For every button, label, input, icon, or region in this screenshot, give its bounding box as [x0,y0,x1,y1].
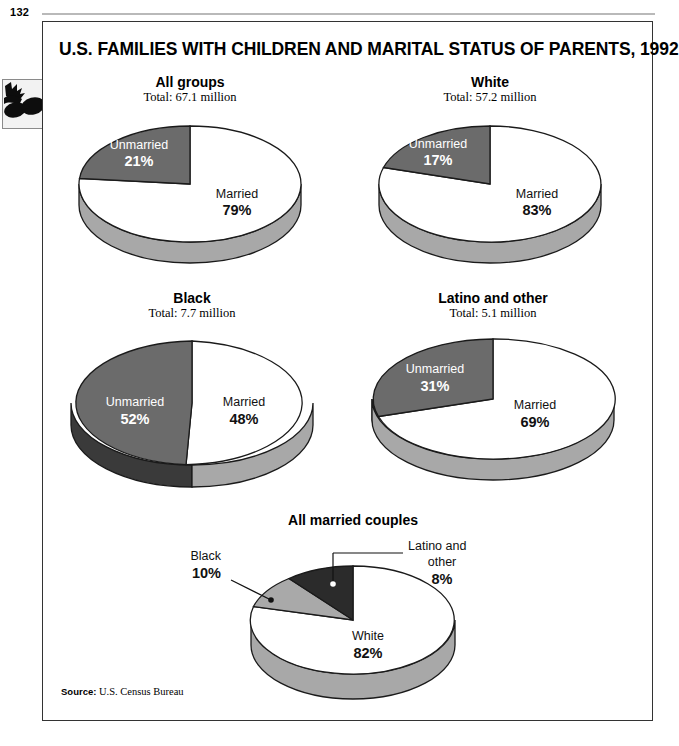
slice-value-married: 79% [222,202,251,218]
slice-value-white: 82% [353,645,382,661]
panel-title-black: Black [57,290,327,306]
source-text: U.S. Census Bureau [99,686,184,697]
slice-value-unmarried: 17% [423,152,452,168]
slice-label-latino-line1: Latino and [408,539,466,553]
panel-title-all-married-couples: All married couples [103,512,603,528]
source-line: Source: U.S. Census Bureau [61,686,184,697]
panel-title-all-groups: All groups [65,74,315,90]
figure-frame: U.S. FAMILIES WITH CHILDREN AND MARITAL … [42,21,653,721]
slice-value-latino: 8% [432,571,453,587]
panel-subtitle-latino: Total: 5.1 million [363,306,623,321]
slice-value-unmarried: 21% [124,153,153,169]
slice-label-latino-line2: other [428,555,457,569]
pie-panel-all-married-couples: All married couples Black [103,512,603,703]
header-rule [42,13,655,15]
slice-label-unmarried: Unmarried [409,137,467,151]
slice-label-black: Black [190,549,221,563]
slice-label-unmarried: Unmarried [106,395,164,409]
pie-panel-latino-and-other: Latino and other Total: 5.1 million Unma… [363,290,623,491]
page-number: 132 [10,6,29,18]
slice-label-unmarried: Unmarried [110,138,168,152]
panel-title-latino: Latino and other [363,290,623,306]
slice-label-married: Married [223,395,265,409]
slice-value-unmarried: 31% [420,378,449,394]
panel-subtitle-all-groups: Total: 67.1 million [65,90,315,105]
pie-chart-black: Unmarried 52% Married 48% [57,321,327,491]
slice-value-married: 48% [229,411,258,427]
slice-value-married: 83% [522,202,551,218]
slice-label-married: Married [516,187,558,201]
pie-chart-all-married-couples: Black 10% Latino and other 8% White 82% [103,528,603,703]
pie-chart-all-groups: Unmarried 21% Married 79% [65,105,315,265]
figure-title: U.S. FAMILIES WITH CHILDREN AND MARITAL … [59,39,679,60]
slice-label-white: White [352,629,384,643]
slice-label-married: Married [514,398,556,412]
slice-value-black: 10% [192,565,221,581]
pie-panel-all-groups: All groups Total: 67.1 million Unmarried… [65,74,315,265]
source-label: Source: [61,686,96,697]
pie-chart-white: Unmarried 17% Married 83% [365,105,615,265]
slice-value-married: 69% [520,414,549,430]
pie-panel-white: White Total: 57.2 million Unmarried 17% … [365,74,615,265]
pie-panel-black: Black Total: 7.7 million Unmarried 52% M… [57,290,327,491]
panel-subtitle-white: Total: 57.2 million [365,90,615,105]
slice-label-married: Married [216,187,258,201]
pie-chart-latino-and-other: Unmarried 31% Married 69% [363,321,623,491]
panel-subtitle-black: Total: 7.7 million [57,306,327,321]
slice-value-unmarried: 52% [120,411,149,427]
panel-title-white: White [365,74,615,90]
slice-label-unmarried: Unmarried [406,362,464,376]
